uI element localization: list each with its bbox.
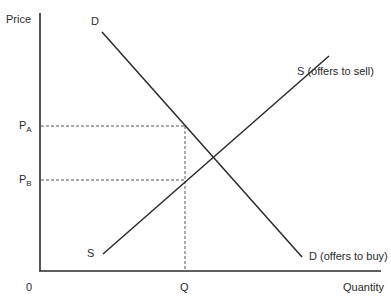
supply-curve xyxy=(103,56,329,254)
supply-top-label: S (offers to sell) xyxy=(297,65,374,77)
origin-label: 0 xyxy=(26,281,32,293)
x-axis-label: Quantity xyxy=(343,281,384,293)
demand-bottom-label: D (offers to buy) xyxy=(309,250,388,262)
demand-curve xyxy=(102,32,302,257)
price-b-label: PB xyxy=(19,173,32,187)
price-a-label: PA xyxy=(19,119,32,133)
y-axis-label: Price xyxy=(6,13,31,25)
supply-bottom-label: S xyxy=(87,247,94,259)
demand-top-label: D xyxy=(91,15,99,27)
quantity-q-label: Q xyxy=(180,281,189,293)
